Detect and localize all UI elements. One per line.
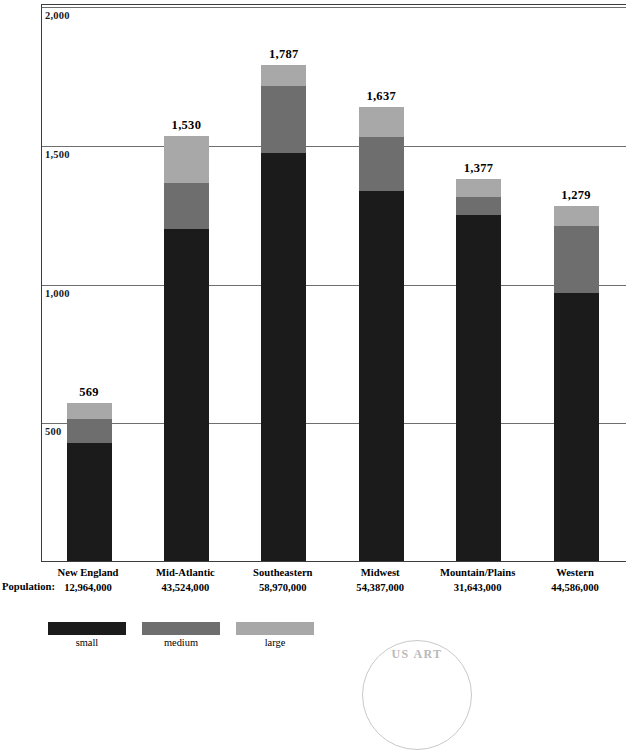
legend-label: small [40, 637, 134, 648]
y-axis-tick-label: 2,000 [45, 10, 70, 21]
bar-total-label: 569 [29, 385, 149, 400]
bar-segment-small[interactable] [359, 191, 404, 561]
bar-segment-small[interactable] [261, 153, 306, 561]
bar-total-label: 1,377 [419, 161, 539, 176]
gridline [42, 7, 626, 8]
bar-segment-large[interactable] [261, 65, 306, 86]
bar-segment-medium[interactable] [456, 197, 501, 215]
bar-group[interactable]: 1,637 [359, 77, 404, 561]
bar-stack[interactable] [359, 107, 404, 561]
category-axis-cell: Western44,586,000 [515, 566, 629, 595]
legend-item-small[interactable]: small [40, 622, 134, 648]
legend-item-large[interactable]: large [228, 622, 322, 648]
bar-segment-medium[interactable] [359, 137, 404, 191]
legend-swatch-small [48, 622, 126, 635]
bar-segment-medium[interactable] [261, 86, 306, 153]
bar-group[interactable]: 569 [67, 373, 112, 561]
bar-group[interactable]: 1,377 [456, 149, 501, 561]
bar-segment-small[interactable] [554, 293, 599, 561]
y-axis-tick-label: 500 [45, 426, 61, 437]
y-axis-tick-label: 1,000 [45, 288, 70, 299]
legend-swatch-medium [142, 622, 220, 635]
bar-segment-large[interactable] [67, 403, 112, 419]
bar-group[interactable]: 1,279 [554, 176, 599, 561]
bar-segment-medium[interactable] [67, 419, 112, 443]
gridline [42, 146, 626, 147]
bar-stack[interactable] [164, 136, 209, 561]
legend-swatch-large [236, 622, 314, 635]
gridline [42, 423, 626, 424]
bar-total-label: 1,279 [516, 188, 629, 203]
bar-stack[interactable] [456, 179, 501, 561]
bar-segment-medium[interactable] [554, 226, 599, 293]
bar-total-label: 1,787 [224, 47, 344, 62]
bar-segment-small[interactable] [456, 215, 501, 561]
population-value: 44,586,000 [515, 581, 629, 596]
legend-label: large [228, 637, 322, 648]
category-axis: New England12,964,000Mid-Atlantic43,524,… [41, 566, 626, 600]
bar-total-label: 1,530 [126, 118, 246, 133]
bar-segment-small[interactable] [67, 443, 112, 561]
bar-total-label: 1,637 [321, 89, 441, 104]
bar-segment-small[interactable] [164, 229, 209, 561]
plot-area: 5001,0001,5002,0005691,5301,7871,6371,37… [41, 4, 626, 562]
category-label: Western [515, 566, 629, 581]
bar-stack[interactable] [554, 206, 599, 561]
legend-label: medium [134, 637, 228, 648]
bar-group[interactable]: 1,530 [164, 106, 209, 561]
population-caption: Population: [2, 581, 55, 592]
gridline [42, 285, 626, 286]
bar-segment-large[interactable] [554, 206, 599, 226]
bar-segment-large[interactable] [456, 179, 501, 197]
bar-segment-medium[interactable] [164, 183, 209, 229]
legend-item-medium[interactable]: medium [134, 622, 228, 648]
watermark-stamp: US ART [362, 640, 472, 750]
chart-legend: smallmediumlarge [40, 622, 340, 656]
bar-group[interactable]: 1,787 [261, 35, 306, 561]
bar-stack[interactable] [261, 65, 306, 561]
bar-stack[interactable] [67, 403, 112, 561]
bar-segment-large[interactable] [164, 136, 209, 182]
y-axis-tick-label: 1,500 [45, 149, 70, 160]
watermark-label: US ART [363, 647, 471, 662]
bar-segment-large[interactable] [359, 107, 404, 137]
